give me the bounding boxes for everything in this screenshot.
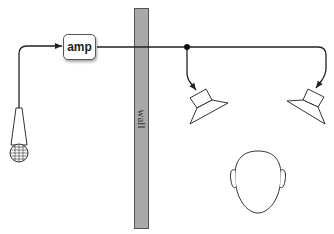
- speaker-right-icon: [287, 89, 325, 124]
- left-speaker-wire: [187, 47, 196, 90]
- signal-diagram: [0, 0, 334, 234]
- listener-head-icon: [230, 151, 285, 213]
- junction-dot: [184, 44, 190, 50]
- mic-to-amp-wire: [19, 46, 62, 108]
- amp-box: amp: [63, 34, 96, 60]
- speaker-left-icon: [190, 89, 228, 124]
- microphone-icon: [10, 108, 28, 162]
- amp-output-wire: [97, 47, 326, 88]
- amp-label: amp: [67, 40, 92, 54]
